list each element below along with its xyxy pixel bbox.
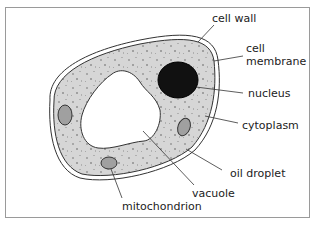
label-cytoplasm: cytoplasm [242,119,299,132]
label-cell-membrane-1: cell [246,42,265,55]
label-nucleus: nucleus [248,87,291,100]
mitochondrion [101,157,117,169]
nucleus [158,62,198,98]
label-mitochondrion: mitochondrion [122,200,202,213]
cell-diagram: cell wall cell membrane nucleus cytoplas… [0,0,316,225]
label-cell-membrane-2: membrane [246,55,306,68]
oil-droplet-left [58,105,72,125]
label-vacuole: vacuole [192,187,235,200]
label-oil-droplet: oil droplet [230,167,286,180]
label-cell-wall: cell wall [212,12,256,25]
